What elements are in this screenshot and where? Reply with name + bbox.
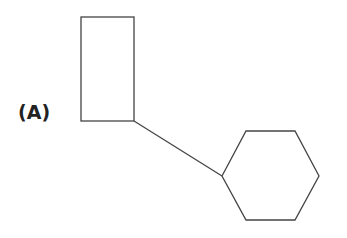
rectangle-shape: [81, 17, 134, 121]
connector-line: [134, 121, 222, 176]
hexagon-shape: [222, 131, 319, 220]
diagram-canvas: [0, 0, 347, 238]
